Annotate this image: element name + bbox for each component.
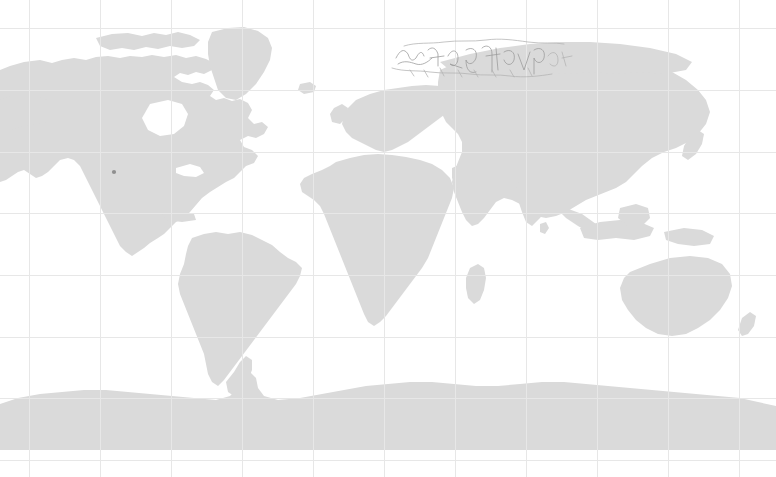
western-us-marker-hitbox[interactable] [108,166,121,179]
world-map-canvas [0,0,776,477]
marker-layer[interactable] [108,166,121,179]
landmass-canadian-arctic [96,32,200,50]
world-map-svg [0,0,776,477]
